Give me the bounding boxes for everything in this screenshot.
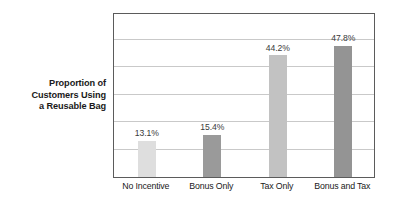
bar-value-label: 15.4% <box>200 122 224 132</box>
y-axis-title-line-1: Proportion of <box>8 78 106 90</box>
bar[interactable] <box>334 46 352 177</box>
bar-group: 15.4% <box>180 14 246 177</box>
y-axis-title: Proportion of Customers Using a Reusable… <box>8 78 106 113</box>
x-axis-label: Tax Only <box>244 181 310 191</box>
plot-area: 13.1%15.4%44.2%47.8% <box>113 13 375 178</box>
y-axis-title-line-3: a Reusable Bag <box>8 101 106 113</box>
x-axis-category-labels: No IncentiveBonus OnlyTax OnlyBonus and … <box>113 181 375 197</box>
bar-value-label: 13.1% <box>135 128 159 138</box>
bar[interactable] <box>138 141 156 177</box>
bar-value-label: 47.8% <box>331 33 355 43</box>
bar-value-label: 44.2% <box>266 43 290 53</box>
bar[interactable] <box>269 55 287 177</box>
bar-chart-figure: Proportion of Customers Using a Reusable… <box>0 0 393 208</box>
bar-group: 13.1% <box>114 14 180 177</box>
x-axis-label: Bonus Only <box>179 181 245 191</box>
x-axis-label: Bonus and Tax <box>310 181 376 191</box>
bar-group: 47.8% <box>311 14 377 177</box>
y-axis-title-line-2: Customers Using <box>8 90 106 102</box>
bar[interactable] <box>203 135 221 177</box>
bar-series: 13.1%15.4%44.2%47.8% <box>114 14 374 177</box>
x-axis-label: No Incentive <box>113 181 179 191</box>
bar-group: 44.2% <box>245 14 311 177</box>
